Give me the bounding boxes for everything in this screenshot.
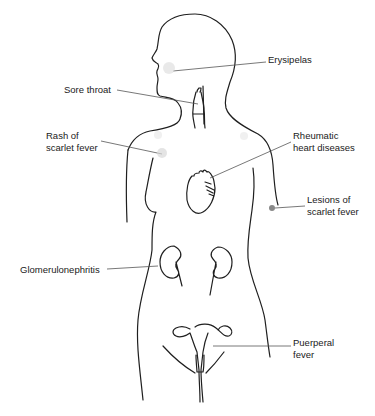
label-text: scarlet fever (307, 206, 359, 218)
label-rash-scarlet-fever: Rash of scarlet fever (46, 130, 98, 153)
label-text: scarlet fever (46, 142, 98, 154)
right-kidney (210, 247, 232, 295)
label-glomerulonephritis: Glomerulonephritis (20, 264, 100, 276)
label-text: Erysipelas (268, 54, 312, 65)
label-puerperal-fever: Puerperal fever (293, 337, 334, 360)
label-text: Sore throat (64, 84, 111, 95)
left-torso-outline (137, 158, 156, 400)
streptococcal-disease-diagram: Erysipelas Sore throat Rash of scarlet f… (0, 0, 375, 416)
left-arm-outline (126, 150, 128, 222)
label-rheumatic-heart: Rheumatic heart diseases (293, 130, 355, 153)
label-text: heart diseases (293, 142, 355, 154)
label-text: fever (293, 349, 334, 361)
throat-tube (203, 86, 204, 124)
right-torso-outline (248, 168, 270, 357)
label-text: Rash of (46, 130, 98, 142)
label-text: Puerperal (293, 337, 334, 349)
uterus (173, 324, 232, 402)
vulva-line-left (163, 346, 195, 373)
label-text: Glomerulonephritis (20, 264, 100, 275)
label-erysipelas: Erysipelas (268, 54, 312, 66)
label-sore-throat: Sore throat (64, 84, 111, 96)
throat-top (197, 88, 201, 92)
left-kidney (160, 246, 182, 286)
label-text: Lesions of (307, 194, 359, 206)
heart (187, 170, 215, 213)
label-lesions-scarlet-fever: Lesions of scarlet fever (307, 194, 359, 217)
head-outline (128, 14, 278, 205)
vulva-line-right (206, 352, 224, 373)
label-text: Rheumatic (293, 130, 355, 142)
